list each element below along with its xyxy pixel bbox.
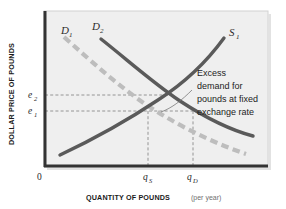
y-tick-label-e2: e 2 [28, 90, 38, 102]
curve-label-s1-base: S [229, 26, 235, 38]
curve-label-d1-sub: 1 [69, 31, 73, 39]
x-tick-qd-base: q [187, 172, 192, 182]
x-tick-qd-sub: D [192, 177, 198, 184]
x-tick-qs-base: q [143, 172, 148, 182]
annotation-line-2: demand for [197, 81, 243, 91]
y-tick-e2-sub: 2 [34, 95, 38, 102]
y-tick-e2-base: e [28, 90, 32, 100]
annotation-line-4: exchange rate [197, 107, 254, 117]
x-axis-title-suffix: (per year) [191, 194, 221, 202]
x-tick-label-qs: q S [143, 172, 153, 184]
x-tick-label-qd: q D [187, 172, 198, 184]
curve-label-d2-sub: 2 [100, 27, 104, 35]
y-axis-title: DOLLAR PRICE OF POUNDS [7, 43, 16, 145]
curve-label-d1-base: D [60, 24, 69, 36]
x-tick-qs-sub: S [149, 177, 153, 184]
y-tick-label-e1: e 1 [28, 106, 37, 118]
panel-shadow-right [268, 14, 271, 170]
curve-label-s1-sub: 1 [236, 33, 240, 41]
y-tick-e1-sub: 1 [34, 111, 37, 118]
annotation-line-3: pounds at fixed [197, 94, 258, 104]
origin-label: 0 [37, 172, 42, 182]
annotation-line-1: Excess [197, 68, 227, 78]
curve-label-d2-base: D [91, 20, 100, 32]
y-tick-e1-base: e [28, 106, 32, 116]
x-axis-title: QUANTITY OF POUNDS [86, 193, 170, 202]
supply-demand-figure: DOLLAR PRICE OF POUNDS QUANTITY OF POUND… [0, 0, 286, 209]
